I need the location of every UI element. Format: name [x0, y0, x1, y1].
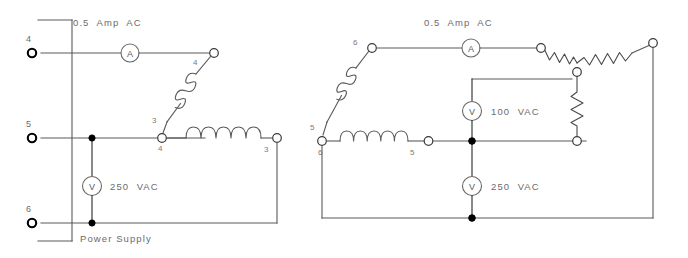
supply-terminal-6[interactable] — [28, 219, 36, 227]
right-junction-dot-bottom — [469, 215, 476, 222]
circuit-diagram-root: 4 5 6 A 0.5 Amp AC 4 3 4 3 — [0, 0, 688, 258]
right-horizontal-coil — [340, 131, 408, 141]
right-node-6-top-label: 6 — [353, 38, 358, 47]
power-supply-label: Power Supply — [80, 233, 152, 244]
diag-wire-upper — [196, 56, 211, 74]
right-diag-wire-lower — [327, 96, 342, 123]
left-node-4-mid-label: 4 — [158, 144, 163, 153]
left-node-4-mid[interactable] — [158, 134, 167, 143]
voltmeter-left-glyph: V — [89, 182, 95, 192]
ammeter-right: A — [462, 39, 480, 57]
right-voltmeter-100vac-label: 100 VAC — [491, 106, 540, 117]
left-junction-dot-lower — [89, 220, 95, 226]
left-horizontal-coil — [186, 127, 261, 138]
right-node-corner-top[interactable] — [649, 39, 658, 48]
left-node-3-right[interactable] — [273, 134, 282, 143]
ammeter-left: A — [121, 44, 139, 62]
supply-terminal-5-label: 5 — [26, 119, 31, 129]
right-node-6-mid[interactable] — [318, 137, 327, 146]
right-voltmeter-250vac-label: 250 VAC — [491, 181, 540, 192]
left-current-label: 0.5 Amp AC — [73, 17, 142, 28]
left-node-3-right-label: 3 — [264, 145, 269, 154]
right-junction-dot-mid — [469, 138, 476, 145]
right-diagonal-coil — [337, 67, 356, 100]
supply-terminal-6-label: 6 — [26, 204, 31, 214]
diag-wire-to-node4mid — [163, 122, 167, 133]
right-wye-center-node[interactable] — [573, 68, 582, 77]
ammeter-right-glyph: A — [468, 44, 474, 54]
right-diag-wire-upper — [356, 51, 369, 68]
right-circuit: 0.5 Amp AC 6 A 5 6 5 — [310, 17, 657, 221]
diag-wire-lower — [167, 104, 181, 123]
left-voltmeter-label: 250 VAC — [110, 181, 159, 192]
left-circuit: 4 5 6 A 0.5 Amp AC 4 3 4 3 — [26, 17, 281, 244]
ammeter-left-glyph: A — [127, 49, 133, 59]
left-node-3-upper-label: 3 — [152, 116, 157, 125]
right-current-label: 0.5 Amp AC — [424, 17, 493, 28]
right-resistor-upper-right — [577, 53, 632, 66]
voltmeter-100vac-glyph: V — [469, 107, 475, 117]
voltmeter-250vac-glyph: V — [469, 182, 475, 192]
right-diag-wire-to-node5 — [323, 122, 327, 135]
supply-terminal-4[interactable] — [28, 49, 36, 57]
left-node-4-top-label: 4 — [193, 58, 198, 67]
right-wire-to-corner-node — [632, 46, 649, 54]
right-node-5-mid-label: 5 — [410, 148, 415, 157]
right-node-lower-resistor[interactable] — [573, 137, 582, 146]
right-node-5-mid[interactable] — [424, 137, 433, 146]
right-resistor-upper-left — [545, 51, 577, 65]
supply-terminal-5[interactable] — [28, 134, 36, 142]
right-node-top-resistor[interactable] — [537, 44, 546, 53]
voltmeter-left: V — [83, 177, 102, 196]
circuit-diagram-svg: 4 5 6 A 0.5 Amp AC 4 3 4 3 — [0, 0, 688, 258]
right-node-5-left-label: 5 — [310, 123, 315, 132]
voltmeter-100vac: V — [463, 102, 482, 121]
voltmeter-250vac: V — [463, 177, 482, 196]
right-resistor-vertical — [571, 77, 583, 137]
left-junction-dot-upper — [89, 135, 95, 141]
supply-terminal-4-label: 4 — [26, 34, 31, 44]
left-diagonal-coil — [175, 73, 196, 108]
